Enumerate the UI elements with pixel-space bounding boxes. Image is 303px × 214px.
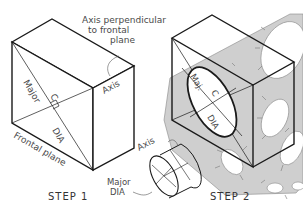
label-axis-perpendicular-3: plane bbox=[110, 35, 135, 45]
cylinder-label-axis: Axis bbox=[135, 135, 156, 153]
step2-caption: STEP 2 bbox=[210, 191, 250, 202]
cylinder-label-dia: DIA bbox=[110, 187, 125, 197]
cylinder-label-major: Major bbox=[107, 177, 131, 187]
label-axis-perpendicular-2: to frontal bbox=[88, 25, 129, 35]
cylinder-dia-leader bbox=[133, 192, 152, 195]
label-axis-perpendicular-1: Axis perpendicular bbox=[82, 15, 166, 25]
step1-caption: STEP 1 bbox=[48, 191, 88, 202]
isometric-cylinder-diagram: Axis perpendicular to frontal plane Axis… bbox=[0, 0, 303, 214]
